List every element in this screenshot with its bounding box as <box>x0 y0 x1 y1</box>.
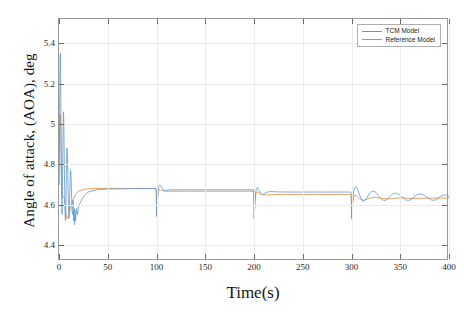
x-axis-tick <box>205 254 206 259</box>
x-axis-tick <box>303 254 304 259</box>
gridline-vertical <box>400 19 401 259</box>
y-axis-tick-label: 4.6 <box>44 200 55 210</box>
gridline-vertical <box>205 19 206 259</box>
y-axis-tick-label: 4.8 <box>44 159 55 169</box>
chart-figure: Angle of attack, (AOA), deg TCM Model Re… <box>0 0 464 316</box>
gridline-vertical <box>449 19 450 259</box>
x-axis-tick-top <box>449 19 450 24</box>
x-axis-tick-label: 400 <box>442 262 456 272</box>
y-axis-tick-right <box>442 205 447 206</box>
x-axis-tick-top <box>352 19 353 24</box>
chart-legend: TCM Model Reference Model <box>357 24 442 47</box>
y-axis-tick <box>59 84 64 85</box>
legend-swatch-reference-model <box>362 39 382 40</box>
gridline-vertical <box>254 19 255 259</box>
x-axis-tick <box>157 254 158 259</box>
gridline-vertical <box>303 19 304 259</box>
y-axis-tick <box>59 164 64 165</box>
x-axis-tick <box>108 254 109 259</box>
x-axis-tick-label: 50 <box>103 262 112 272</box>
legend-label-reference-model: Reference Model <box>386 37 436 44</box>
y-axis-tick-label: 5.2 <box>44 79 55 89</box>
y-axis-tick-right <box>442 164 447 165</box>
y-axis-tick-right <box>442 124 447 125</box>
gridline-vertical <box>157 19 158 259</box>
y-axis-tick-right <box>442 43 447 44</box>
x-axis-tick-label: 250 <box>296 262 310 272</box>
x-axis-tick-top <box>59 19 60 24</box>
gridline-vertical <box>352 19 353 259</box>
y-axis-tick <box>59 124 64 125</box>
x-axis-tick <box>400 254 401 259</box>
x-axis-tick <box>59 254 60 259</box>
y-axis-tick-right <box>442 245 447 246</box>
gridline-horizontal <box>59 164 447 165</box>
y-axis-tick <box>59 205 64 206</box>
y-axis-title: Angle of attack, (AOA), deg <box>21 16 38 266</box>
y-axis-tick <box>59 245 64 246</box>
y-axis-tick-label: 5.4 <box>44 38 55 48</box>
x-axis-tick <box>254 254 255 259</box>
plot-area: TCM Model Reference Model 4.44.64.855.25… <box>58 18 448 260</box>
x-axis-tick-top <box>254 19 255 24</box>
legend-item-tcm-model: TCM Model <box>362 28 436 35</box>
y-axis-tick-label: 4.4 <box>44 240 55 250</box>
x-axis-tick-top <box>157 19 158 24</box>
y-axis-tick-label: 5 <box>51 119 56 129</box>
x-axis-tick-label: 300 <box>345 262 359 272</box>
x-axis-tick <box>352 254 353 259</box>
legend-swatch-tcm-model <box>362 31 382 32</box>
legend-label-tcm-model: TCM Model <box>386 28 420 35</box>
x-axis-tick-label: 100 <box>150 262 164 272</box>
x-axis-tick-label: 0 <box>57 262 62 272</box>
y-axis-tick-right <box>442 84 447 85</box>
x-axis-tick-label: 350 <box>394 262 408 272</box>
x-axis-tick-top <box>205 19 206 24</box>
gridline-horizontal <box>59 245 447 246</box>
x-axis-tick-label: 200 <box>247 262 261 272</box>
x-axis-tick-top <box>303 19 304 24</box>
legend-item-reference-model: Reference Model <box>362 37 436 44</box>
gridline-horizontal <box>59 84 447 85</box>
gridline-horizontal <box>59 205 447 206</box>
x-axis-tick-label: 150 <box>199 262 213 272</box>
gridline-vertical <box>108 19 109 259</box>
x-axis-title: Time(s) <box>58 283 448 303</box>
gridline-horizontal <box>59 124 447 125</box>
x-axis-tick <box>449 254 450 259</box>
y-axis-tick <box>59 43 64 44</box>
x-axis-tick-top <box>108 19 109 24</box>
